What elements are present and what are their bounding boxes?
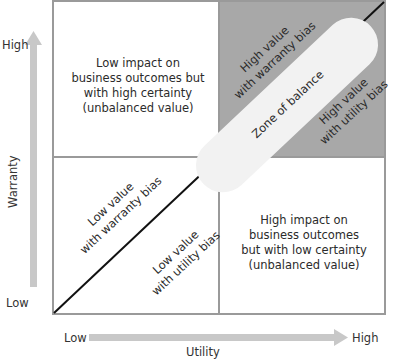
x-axis-high-label: High (352, 331, 378, 345)
y-axis-arrow (25, 31, 42, 287)
quadrant-top-left-text: Low impact on business outcomes but with… (60, 56, 216, 116)
y-axis-low-label: Low (6, 296, 29, 310)
x-axis-title: Utility (186, 345, 220, 359)
quadrant-bottom-right-text: High impact on business outcomes but wit… (224, 213, 384, 273)
y-axis-high-label: High (2, 38, 28, 52)
x-axis-arrow (89, 329, 348, 346)
x-axis-low-label: Low (64, 331, 87, 345)
y-axis-title: Warranty (6, 158, 20, 208)
